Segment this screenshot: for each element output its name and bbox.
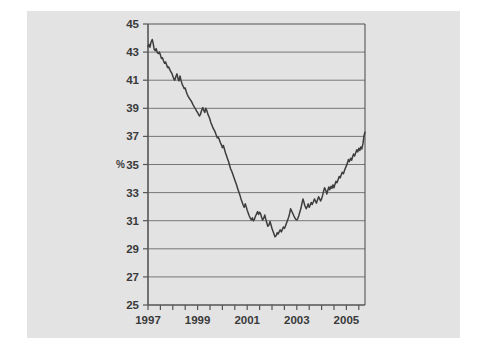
y-tick-label: 43 (126, 46, 139, 58)
y-tick-label-group: 4543413937353331292725 (126, 18, 139, 311)
chart-figure: 4543413937353331292725 19971999200120032… (0, 0, 486, 354)
y-tick-label: 37 (126, 130, 139, 142)
y-tick-label: 45 (126, 18, 139, 30)
y-tick-label: 27 (126, 271, 139, 283)
y-tick-label: 35 (126, 159, 139, 171)
y-tick-label: 41 (126, 74, 139, 86)
x-tick-label: 2003 (284, 314, 310, 326)
chart-plot: 4543413937353331292725 19971999200120032… (0, 0, 486, 354)
y-tick-label: 31 (126, 215, 139, 227)
y-axis-label: % (116, 159, 125, 170)
x-tick-label: 1997 (135, 314, 161, 326)
x-tick-label: 1999 (185, 314, 211, 326)
x-tick-label: 2001 (234, 314, 260, 326)
data-line-percent (148, 39, 365, 236)
y-tick-label: 29 (126, 243, 139, 255)
y-tick-label: 33 (126, 187, 139, 199)
x-tick-label-group: 19971999200120032005 (135, 314, 360, 326)
gridline-group (148, 52, 365, 277)
y-tick-label: 39 (126, 102, 139, 114)
y-tick-label: 25 (126, 299, 139, 311)
x-tick-label: 2005 (334, 314, 360, 326)
